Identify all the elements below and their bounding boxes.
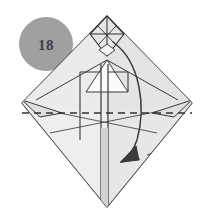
- origami-step-diagram: 18: [0, 0, 207, 218]
- origami-illustration: 18: [0, 0, 207, 218]
- step-number-label: 18: [38, 37, 54, 53]
- center-strip-shading: [101, 128, 108, 207]
